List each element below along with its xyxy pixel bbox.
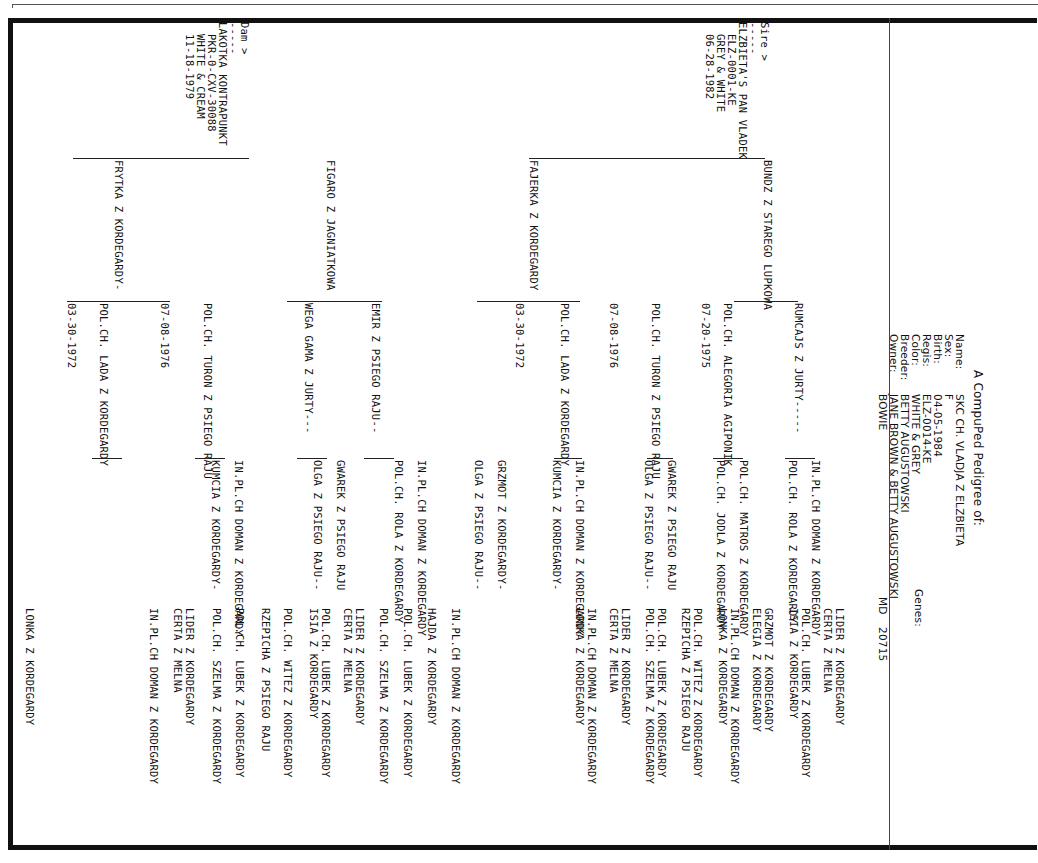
- dam-name: LAKOTKA KONTRAPUNKT: [217, 22, 228, 146]
- gen4-2: POL.CH. ROLA Z KORDEGARDY: [787, 460, 798, 623]
- gen3-4-date: 03-30-1972: [514, 303, 525, 368]
- gen4-branch: [554, 458, 582, 459]
- value-regis: ELZ-0014-KE: [921, 394, 932, 464]
- sire-regis: ELZ-0001-KE: [726, 34, 737, 106]
- owner-zip: 20715: [877, 627, 888, 661]
- gen3-8-date: 03-30-1972: [66, 303, 77, 368]
- gen5-8: LONKA Z KORDEGARDY: [717, 608, 728, 725]
- gen4-5: GWAREK Z PSIEGO RAJU: [666, 460, 677, 590]
- gen5-17: IN.PL.CH DOMAN Z KORDEGARDY: [450, 608, 461, 784]
- gen2-dam-dam: FRYTKA Z KORDEGARDY-: [113, 160, 124, 290]
- gen4-14: OLGA Z PSIEGO RAJU--: [312, 460, 323, 590]
- value-birth: 04-05-1984: [932, 394, 943, 457]
- gen4-12: POL.CH. ROLA Z KORDEGARDY: [393, 460, 404, 623]
- gen5-12: POL.CH. SZELMA Z KORDEGARDY: [644, 608, 655, 784]
- gen5-9: POL.CH. WITEZ Z KORDEGARDY: [692, 608, 703, 778]
- gen4-branch: [297, 458, 327, 459]
- gen5-27: POL.CH. LUBEK Z KORDEGARDY: [234, 608, 245, 778]
- sire-birth: 06-28-1982: [704, 34, 715, 99]
- gen4-8: KUMCIA Z KORDEGARDY-: [551, 460, 562, 590]
- sire-color: GREY & WHITE: [715, 34, 726, 112]
- document-title: A CompuPed Pedigree of:: [972, 370, 983, 526]
- dam-heading: Dam >: [239, 22, 250, 55]
- gen4-10: OLGA Z PSIEGO RAJU--: [473, 460, 484, 590]
- label-birth: Birth:: [932, 334, 943, 364]
- gen3-7-date: 07-08-1976: [159, 303, 170, 368]
- label-color: Color:: [910, 334, 921, 366]
- gen5-14: CERTA Z MELNA: [608, 608, 619, 693]
- gen3-8: POL.CH. LADA Z KORDEGARDY: [98, 303, 109, 466]
- gen5-6: ELEGIA Z KORDEGARDY: [751, 608, 762, 732]
- gen4-4: POL.CH. JODLA Z KORDEGARDY: [715, 460, 726, 630]
- gen2-sire-dam: FAJERKA Z KORDEGARDY: [528, 160, 539, 290]
- gen5-18: HAJDA Z KORDEGARDY: [426, 608, 437, 725]
- gen4-9: GRZMOT Z KORDEGARDY-: [496, 460, 507, 590]
- gen5-5: GRZMOT Z KORDEGARDY: [763, 608, 774, 732]
- gen4-branch: [364, 458, 394, 459]
- gen3-4: POL.CH. LADA Z KORDEGARDY: [559, 303, 570, 466]
- gen2-dam-sire: FIGARO Z JAGNIATKOWA: [325, 160, 336, 290]
- gen5-26: RZEPICHA Z PSIEGO RAJU: [260, 608, 271, 751]
- gen5-1: LIDER Z KORDEGARDY: [834, 608, 845, 725]
- gen5-22: CERTA Z MELNA: [342, 608, 353, 693]
- dam-dashes: -----: [228, 22, 239, 55]
- gen5-15: IN.PL.CH DOMAN Z KORDEGARDY: [586, 608, 597, 784]
- gen3-branch-1: [734, 301, 798, 302]
- sire-branch-line: [529, 158, 765, 159]
- pedigree-document: A CompuPed Pedigree of: Name: SKC CH. VL…: [8, 18, 1037, 850]
- gen5-19: POL.CH. LUBEK Z KORDEGARDY: [402, 608, 413, 778]
- gen3-3: POL.CH. TURON Z PSIEGO RAJU: [650, 303, 661, 479]
- gen4-branch: [647, 458, 673, 459]
- gen4-6: OLGA Z PSIEGO RAJU--: [643, 460, 654, 590]
- gen5-4: ISIA Z KORDEGARDY: [788, 608, 799, 719]
- panel-separator: [889, 18, 890, 850]
- gen5-21: LIDER Z KORDEGARDY: [354, 608, 365, 725]
- gen3-7: POL.CH. TURON Z PSIEGO RAJU: [202, 303, 213, 479]
- gen4-16: KUMCIA Z KORDEGARDY-: [210, 460, 221, 590]
- sire-heading: Sire >: [759, 22, 770, 61]
- gen4-branch: [713, 458, 743, 459]
- label-sex: Sex:: [943, 334, 954, 358]
- gen3-6: WEGA GAMA Z JURTY---: [303, 303, 314, 433]
- gen5-16: LONKA Z KORDEGARDY: [574, 608, 585, 725]
- gen5-30: CERTA Z MELNA: [172, 608, 183, 693]
- gen3-5: EMIR Z PSIEGO RAJU--: [370, 303, 381, 433]
- label-breeder: Breeder:: [899, 334, 910, 381]
- gen5-13: LIDER Z KORDEGARDY: [620, 608, 631, 725]
- gen3-1: RUMCAJS Z JURTY-----: [793, 303, 804, 433]
- owner-state: MD: [877, 597, 888, 615]
- gen3-branch-4: [67, 301, 170, 302]
- gen5-7: IN.PL.CH DOMAN Z KORDEGARDY: [729, 608, 740, 784]
- value-name: SKC CH. VLADJA Z ELZBIETA: [954, 394, 965, 546]
- gen4-branch: [92, 458, 122, 459]
- gen4-13: GWAREK Z PSIEGO RAJU: [335, 460, 346, 590]
- dam-regis: PKR-0-CXV-30088: [206, 34, 217, 132]
- dam-color: WHITE & CREAM: [195, 34, 206, 119]
- gen4-branch: [785, 458, 815, 459]
- gen5-23: POL.CH. LUBEK Z KORDEGARDY: [320, 608, 331, 778]
- dam-birth: 11-18-1979: [184, 34, 195, 99]
- gen5-24: ISIA Z KORDEGARDY: [308, 608, 319, 719]
- owner-city: BOWIE: [877, 394, 888, 430]
- value-color: WHITE & GREY: [910, 394, 921, 474]
- page-top-rule: [12, 4, 1038, 8]
- gen5-3: POL.CH. LUBEK Z KORDEGARDY: [800, 608, 811, 778]
- label-regis: Regis:: [921, 334, 932, 367]
- gen5-31: IN.PL.CH DOMAN Z KORDEGARDY: [148, 608, 159, 784]
- gen5-32: LONKA Z KORDEGARDY: [24, 608, 35, 725]
- gen3-2: POL.CH. ALEGORIA AGIPONIK: [722, 303, 733, 466]
- sire-name: ELZBIETA'S PAN VLADEK: [737, 22, 748, 159]
- gen3-branch-3: [287, 301, 382, 302]
- sire-dashes: -----: [748, 22, 759, 55]
- gen3-branch-2: [477, 301, 580, 302]
- gen5-29: LIDER Z KORDEGARDY: [184, 608, 195, 725]
- dam-branch-line: [73, 158, 249, 159]
- genes-label: Genes:: [913, 589, 924, 627]
- gen3-2-date: 07-20-1975: [700, 303, 711, 368]
- value-breeder: BETTY AUGUSTOWSKI: [899, 394, 910, 513]
- gen5-2: CERTA Z MELNA: [822, 608, 833, 693]
- gen5-10: RZEPICHA Z PSIEGO RAJU: [680, 608, 691, 751]
- gen5-25: POL.CH. WITEZ Z KORDEGARDY: [282, 608, 293, 778]
- gen2-sire-sire: BUNDZ Z STAREGO LUPKOWA: [762, 160, 773, 310]
- label-name: Name:: [954, 334, 965, 370]
